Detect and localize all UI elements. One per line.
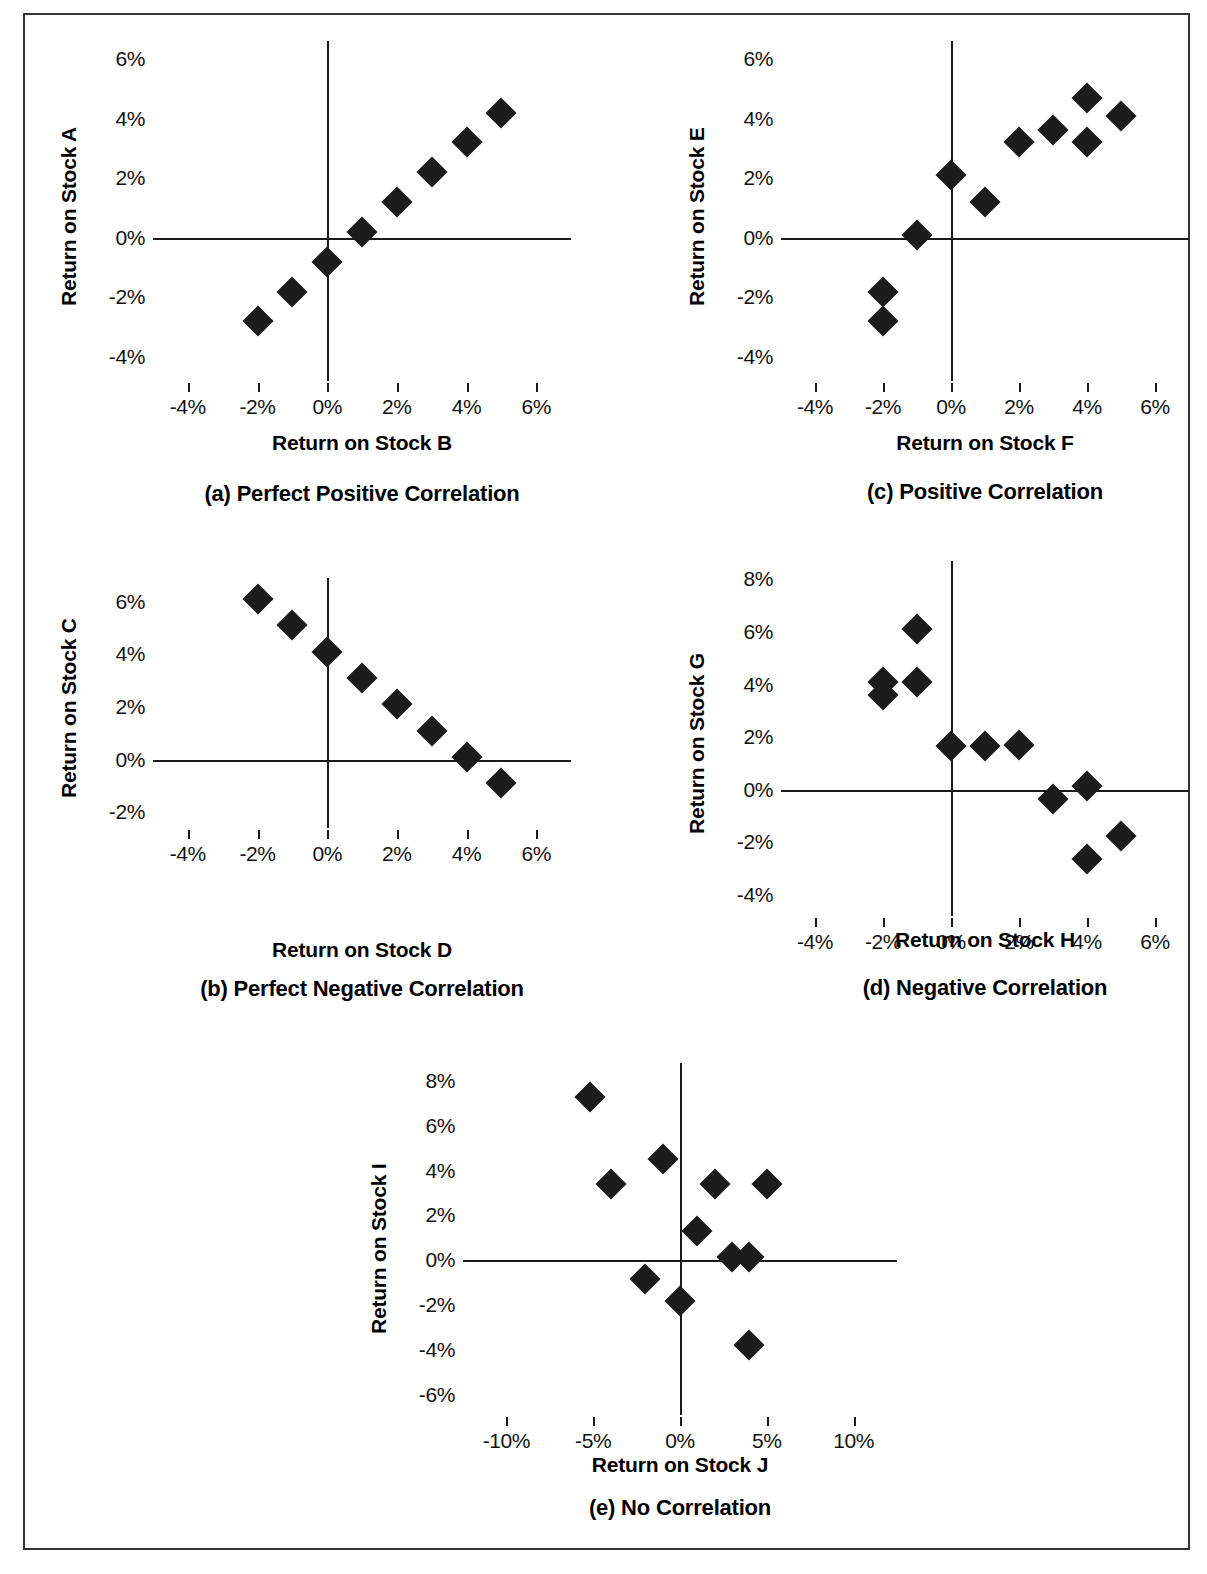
- x-tick: [951, 383, 953, 392]
- plot-area-a: -4%-2%0%2%4%6%6%4%2%0%-2%-4%: [153, 41, 571, 381]
- y-tick-label: 6%: [385, 1114, 455, 1138]
- data-point: [346, 216, 377, 247]
- y-axis-line: [680, 1063, 682, 1415]
- y-tick-label: 0%: [75, 226, 145, 250]
- data-point: [312, 246, 343, 277]
- x-tick: [854, 1417, 856, 1426]
- y-tick-label: 6%: [703, 620, 773, 644]
- x-tick-label: 4%: [1072, 930, 1102, 954]
- data-point: [699, 1169, 730, 1200]
- x-tick-label: 4%: [452, 395, 482, 419]
- y-tick-label: 2%: [703, 166, 773, 190]
- y-tick-label: 0%: [703, 778, 773, 802]
- y-tick-label: -2%: [75, 800, 145, 824]
- data-point: [969, 186, 1000, 217]
- chart-caption-c: (c) Positive Correlation: [867, 479, 1103, 505]
- x-tick-label: -2%: [865, 395, 901, 419]
- x-tick: [767, 1417, 769, 1426]
- data-point: [1105, 100, 1136, 131]
- y-axis-line: [327, 41, 329, 381]
- x-tick-label: 0%: [312, 395, 342, 419]
- y-axis-title-b: Return on Stock C: [57, 618, 81, 798]
- x-axis-title-b: Return on Stock D: [272, 938, 452, 962]
- data-point: [595, 1169, 626, 1200]
- x-tick: [327, 383, 329, 392]
- x-tick-label: -5%: [575, 1429, 611, 1453]
- y-tick-label: -2%: [385, 1293, 455, 1317]
- x-tick: [506, 1417, 508, 1426]
- x-tick-label: -4%: [797, 395, 833, 419]
- y-tick-label: 6%: [703, 47, 773, 71]
- x-tick: [1087, 918, 1089, 927]
- x-tick: [258, 830, 260, 839]
- x-tick: [188, 383, 190, 392]
- x-tick: [951, 918, 953, 927]
- data-point: [664, 1285, 695, 1316]
- x-tick-label: 6%: [521, 395, 551, 419]
- x-axis-title-d: Return on Stock H: [895, 928, 1075, 952]
- x-tick-label: 6%: [1140, 930, 1170, 954]
- x-tick-label: -2%: [239, 395, 275, 419]
- plot-area-c: -4%-2%0%2%4%6%6%4%2%0%-2%-4%: [781, 41, 1189, 381]
- y-tick-label: 0%: [75, 748, 145, 772]
- x-tick-label: -2%: [239, 842, 275, 866]
- x-tick: [883, 918, 885, 927]
- x-tick-label: 0%: [312, 842, 342, 866]
- y-tick-label: -2%: [703, 830, 773, 854]
- y-tick-label: 0%: [385, 1248, 455, 1272]
- x-tick: [258, 383, 260, 392]
- x-tick: [1155, 918, 1157, 927]
- data-point: [1037, 115, 1068, 146]
- x-tick-label: 4%: [452, 842, 482, 866]
- x-tick: [1019, 918, 1021, 927]
- x-tick-label: 5%: [752, 1429, 782, 1453]
- data-point: [381, 186, 412, 217]
- chart-panel-c: -4%-2%0%2%4%6%6%4%2%0%-2%-4%: [781, 41, 1189, 381]
- chart-caption-d: (d) Negative Correlation: [863, 975, 1108, 1001]
- y-tick-label: 8%: [385, 1069, 455, 1093]
- data-point: [867, 276, 898, 307]
- data-point: [486, 768, 517, 799]
- data-point: [1071, 127, 1102, 158]
- chart-panel-b: -4%-2%0%2%4%6%6%4%2%0%-2%: [153, 578, 571, 828]
- chart-caption-e: (e) No Correlation: [589, 1495, 771, 1521]
- data-point: [277, 610, 308, 641]
- data-point: [574, 1081, 605, 1112]
- y-tick-label: 8%: [703, 567, 773, 591]
- y-axis-line: [951, 41, 953, 381]
- x-tick-label: 10%: [833, 1429, 874, 1453]
- x-tick: [883, 383, 885, 392]
- x-tick-label: 0%: [665, 1429, 695, 1453]
- data-point: [381, 689, 412, 720]
- x-tick: [397, 383, 399, 392]
- y-axis-line: [327, 578, 329, 828]
- data-point: [1105, 820, 1136, 851]
- data-point: [1003, 730, 1034, 761]
- y-tick-label: 4%: [703, 107, 773, 131]
- x-axis-title-e: Return on Stock J: [592, 1453, 768, 1477]
- x-axis-title-a: Return on Stock B: [272, 431, 452, 455]
- x-tick: [1019, 383, 1021, 392]
- plot-area-b: -4%-2%0%2%4%6%6%4%2%0%-2%: [153, 578, 571, 828]
- y-tick-label: 4%: [75, 107, 145, 131]
- data-point: [242, 306, 273, 337]
- x-tick-label: 2%: [382, 395, 412, 419]
- data-point: [1003, 127, 1034, 158]
- x-tick: [815, 918, 817, 927]
- chart-panel-e: -10%-5%0%5%10%8%6%4%2%0%-2%-4%-6%: [463, 1063, 897, 1415]
- data-point: [734, 1330, 765, 1361]
- data-point: [1071, 82, 1102, 113]
- plot-area-e: -10%-5%0%5%10%8%6%4%2%0%-2%-4%-6%: [463, 1063, 897, 1415]
- x-tick-label: 6%: [1140, 395, 1170, 419]
- data-point: [1037, 783, 1068, 814]
- y-tick-label: 2%: [703, 725, 773, 749]
- data-point: [312, 636, 343, 667]
- data-point: [416, 715, 447, 746]
- x-tick: [536, 383, 538, 392]
- data-point: [242, 583, 273, 614]
- x-tick: [397, 830, 399, 839]
- chart-caption-b: (b) Perfect Negative Correlation: [200, 976, 524, 1002]
- chart-panel-d: -4%-2%0%2%4%6%8%6%4%2%0%-2%-4%: [781, 561, 1189, 916]
- data-point: [630, 1264, 661, 1295]
- x-tick: [467, 383, 469, 392]
